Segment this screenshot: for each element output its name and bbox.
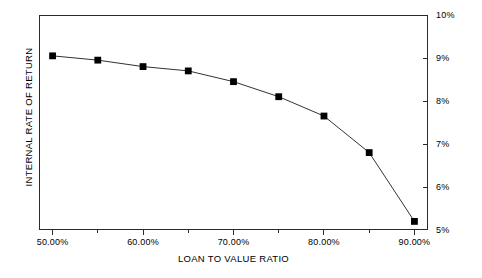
data-point-marker [411,218,418,225]
y-tick-major [423,144,428,145]
data-point-marker [140,63,147,70]
x-tick-label: 50.00% [37,237,69,247]
y-tick-major [423,101,428,102]
y-tick-label: 7% [436,139,449,149]
plot-area [39,15,428,230]
y-tick-label: 10% [436,10,455,20]
data-point-marker [185,68,192,75]
x-tick-major [52,230,53,235]
x-tick-minor [97,230,98,233]
series-markers [49,52,418,224]
y-tick-label: 5% [436,225,449,235]
x-tick-minor [188,230,189,233]
data-point-marker [49,52,56,59]
data-point-marker [230,78,237,85]
x-tick-major [414,230,415,235]
y-tick-label: 9% [436,53,449,63]
x-axis-title: LOAN TO VALUE RATIO [39,253,428,264]
data-point-marker [321,113,328,120]
x-tick-minor [278,230,279,233]
x-tick-major [323,230,324,235]
data-point-marker [275,93,282,100]
x-tick-major [143,230,144,235]
y-axis-title: INTERNAL RATE OF RETURN [17,2,41,232]
data-point-marker [94,57,101,64]
x-tick-label: 70.00% [218,237,250,247]
x-tick-minor [369,230,370,233]
y-tick-label: 8% [436,96,449,106]
y-tick-major [423,187,428,188]
x-tick-label: 60.00% [127,237,159,247]
chart-container: INTERNAL RATE OF RETURN LOAN TO VALUE RA… [0,0,482,278]
y-tick-label: 6% [436,182,449,192]
y-tick-major [423,58,428,59]
x-tick-major [233,230,234,235]
data-point-marker [366,149,373,156]
x-tick-label: 80.00% [308,237,340,247]
x-tick-label: 90.00% [399,237,431,247]
